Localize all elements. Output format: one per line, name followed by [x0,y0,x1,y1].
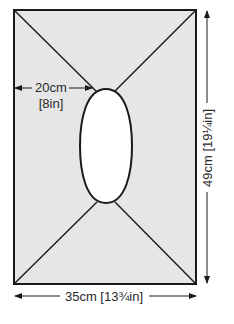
neck-offset-in-label: [8in] [39,96,64,111]
width-measurement: 35cm [13¾in] [15,289,196,304]
schematic-diagram: 20cm [8in] 49cm [19¼in] 35cm [13¾in] [0,0,234,324]
neck-offset-cm-label: 20cm [35,80,67,95]
length-label: 49cm [19¼in] [200,109,215,187]
length-measurement: 49cm [19¼in] [200,11,215,283]
width-label: 35cm [13¾in] [65,289,143,304]
neck-opening [80,89,132,203]
